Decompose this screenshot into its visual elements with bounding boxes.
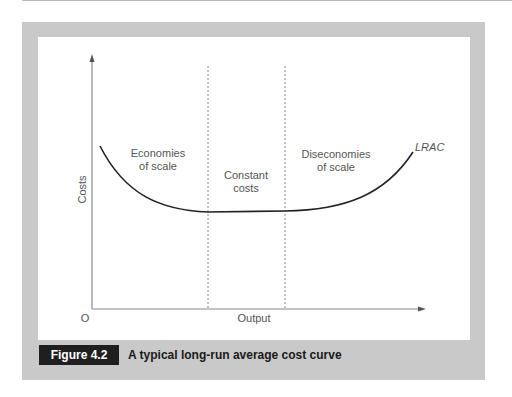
x-axis-arrow-icon bbox=[418, 307, 426, 312]
lrac-label: LRAC bbox=[415, 141, 444, 153]
region-constant-label: Constant costs bbox=[210, 169, 282, 195]
figure-caption: A typical long-run average cost curve bbox=[128, 345, 342, 365]
region-economies-label: Economies of scale bbox=[118, 147, 198, 173]
region-constant-line1: Constant bbox=[210, 169, 282, 182]
region-diseconomies-line2: of scale bbox=[290, 161, 382, 174]
region-diseconomies-line1: Diseconomies bbox=[290, 148, 382, 161]
origin-label: O bbox=[78, 312, 92, 325]
figure-number-badge: Figure 4.2 bbox=[39, 345, 119, 365]
x-axis-label: Output bbox=[224, 312, 284, 325]
region-constant-line2: costs bbox=[210, 182, 282, 195]
y-axis-arrow-icon bbox=[90, 54, 95, 62]
region-economies-line2: of scale bbox=[118, 160, 198, 173]
y-axis-label: Costs bbox=[76, 160, 89, 220]
region-diseconomies-label: Diseconomies of scale bbox=[290, 148, 382, 174]
region-economies-line1: Economies bbox=[118, 147, 198, 160]
